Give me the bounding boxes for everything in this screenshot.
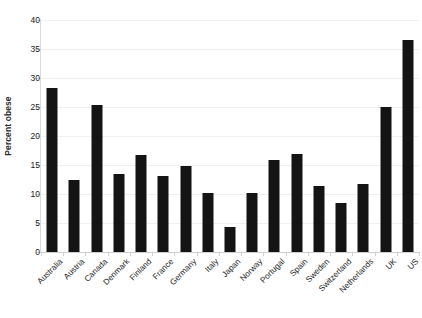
x-tick-mark: [375, 252, 376, 256]
bar-slot: [375, 20, 397, 252]
x-tick-label: Australia: [36, 257, 65, 286]
y-tick-label: 35: [18, 44, 40, 54]
bar-slot: [41, 20, 63, 252]
y-tick-label: 30: [18, 73, 40, 83]
bar[interactable]: [358, 184, 369, 252]
bar-slot: [219, 20, 241, 252]
bar[interactable]: [202, 193, 213, 252]
bar[interactable]: [91, 105, 102, 252]
x-tick-label: Italy: [203, 257, 220, 274]
y-tick-label: 20: [18, 131, 40, 141]
bars-layer: [41, 20, 419, 252]
y-tick-label: 40: [18, 15, 40, 25]
y-tick-label: 10: [18, 189, 40, 199]
bar-slot: [174, 20, 196, 252]
bar-chart: Percent obese 0510152025303540 Australia…: [0, 0, 422, 318]
x-tick-mark: [308, 252, 309, 256]
bar[interactable]: [69, 180, 80, 252]
bar[interactable]: [313, 186, 324, 252]
x-tick-mark: [63, 252, 64, 256]
y-tick-label: 15: [18, 160, 40, 170]
y-axis-tick-labels: 0510152025303540: [14, 20, 40, 252]
bar[interactable]: [380, 107, 391, 252]
bar-slot: [330, 20, 352, 252]
bar[interactable]: [158, 176, 169, 252]
bar[interactable]: [224, 227, 235, 252]
y-tick-label: 5: [18, 218, 40, 228]
x-tick-mark: [330, 252, 331, 256]
bar[interactable]: [113, 174, 124, 252]
bar-slot: [130, 20, 152, 252]
bar[interactable]: [47, 88, 58, 252]
x-tick-mark: [419, 252, 420, 256]
bar-slot: [85, 20, 107, 252]
x-tick-mark: [286, 252, 287, 256]
bar[interactable]: [247, 193, 258, 252]
x-tick-mark: [108, 252, 109, 256]
bar[interactable]: [136, 155, 147, 252]
bar[interactable]: [291, 154, 302, 252]
x-tick-marks: [41, 252, 419, 256]
bar-slot: [108, 20, 130, 252]
bar-slot: [286, 20, 308, 252]
bar[interactable]: [269, 160, 280, 252]
x-tick-mark: [152, 252, 153, 256]
x-tick-mark: [219, 252, 220, 256]
bar-slot: [397, 20, 419, 252]
bar-slot: [241, 20, 263, 252]
bar[interactable]: [336, 203, 347, 252]
x-tick-mark: [174, 252, 175, 256]
bar-slot: [263, 20, 285, 252]
y-tick-label: 0: [18, 247, 40, 257]
x-tick-mark: [241, 252, 242, 256]
x-tick-mark: [352, 252, 353, 256]
y-tick-label: 25: [18, 102, 40, 112]
bar-slot: [152, 20, 174, 252]
bar-slot: [308, 20, 330, 252]
x-tick-label: UK: [384, 257, 398, 271]
bar-slot: [352, 20, 374, 252]
x-tick-mark: [85, 252, 86, 256]
x-tick-mark: [397, 252, 398, 256]
x-tick-mark: [130, 252, 131, 256]
x-tick-mark: [41, 252, 42, 256]
x-tick-label: US: [406, 257, 420, 271]
x-tick-mark: [263, 252, 264, 256]
bar-slot: [63, 20, 85, 252]
x-tick-label: Finland: [128, 257, 153, 282]
x-tick-mark: [197, 252, 198, 256]
x-axis-tick-labels: AustraliaAustriaCanadaDenmarkFinlandFran…: [41, 257, 419, 318]
bar-slot: [197, 20, 219, 252]
bar[interactable]: [180, 166, 191, 252]
bar[interactable]: [402, 40, 413, 252]
